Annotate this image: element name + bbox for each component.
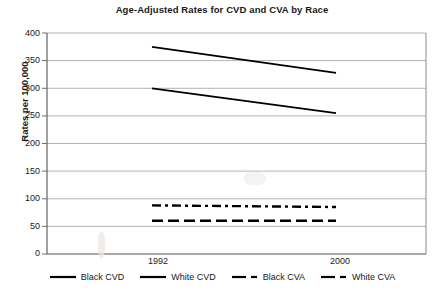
legend-label-white-cva: White CVA — [352, 272, 395, 282]
legend-label-white-cvd: White CVD — [171, 272, 216, 282]
y-axis-ticks — [42, 33, 47, 254]
legend-swatch-solid-icon — [49, 273, 77, 281]
legend-swatch-dashdot-icon — [231, 273, 259, 281]
series-black-cvd — [152, 88, 336, 113]
legend-label-black-cva: Black CVA — [263, 272, 305, 282]
series-white-cvd — [152, 47, 336, 73]
scan-artifact — [244, 172, 266, 185]
legend-item-black-cvd[interactable]: Black CVD — [49, 272, 125, 282]
legend-swatch-solid-icon — [139, 273, 167, 281]
legend-swatch-dashdot-icon — [320, 273, 348, 281]
scan-artifact — [98, 232, 105, 258]
legend-item-black-cva[interactable]: Black CVA — [231, 272, 305, 282]
legend-label-black-cvd: Black CVD — [81, 272, 125, 282]
legend-item-white-cva[interactable]: White CVA — [320, 272, 395, 282]
series-black-cva — [152, 205, 336, 207]
chart-container: Age-Adjusted Rates for CVD and CVA by Ra… — [0, 0, 444, 292]
chart-legend: Black CVD White CVD Black CVA White CVA — [0, 272, 444, 282]
legend-item-white-cvd[interactable]: White CVD — [139, 272, 216, 282]
plot-area — [0, 0, 444, 292]
